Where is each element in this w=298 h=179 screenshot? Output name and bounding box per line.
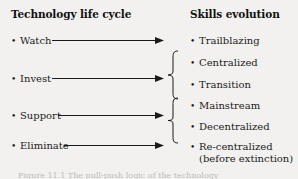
bullet-icon: • [190,58,199,69]
list-item-sublabel: (before extinction) [190,153,293,164]
brace-mainstream-decentralized-icon [167,97,179,144]
bullet-icon: • [11,74,20,85]
list-item-label: Eliminate [20,140,69,151]
arrow-watch-to-trailblazing-icon [52,36,164,45]
list-item-label: Centralized [199,57,258,68]
bullet-icon: • [190,142,199,153]
bullet-icon: • [190,101,199,112]
list-item-label: Decentralized [199,121,270,132]
arrow-eliminate-to-recentralized-icon [64,141,164,150]
list-item-support: •Support [11,110,61,122]
bullet-icon: • [190,80,199,91]
list-item-label: Trailblazing [199,35,260,46]
arrow-invest-to-centralized-group-icon [52,74,164,83]
list-item-label: Transition [199,79,251,90]
list-item-label: Invest [20,73,51,84]
list-item-label: Mainstream [199,100,260,111]
list-item-invest: •Invest [11,73,51,85]
list-item-eliminate: •Eliminate [11,140,69,152]
list-item-decentralized: •Decentralized [190,121,270,133]
arrow-support-to-mainstream-group-icon [58,111,164,120]
bullet-icon: • [190,36,199,47]
brace-centralized-transition-icon [167,50,179,100]
list-item-transition: •Transition [190,79,251,91]
technology-lifecycle-diagram: Technology life cycle Skills evolution •… [0,0,298,179]
list-item-centralized: •Centralized [190,57,258,69]
column-heading-technology-life-cycle: Technology life cycle [11,8,131,20]
list-item-mainstream: •Mainstream [190,100,260,112]
figure-caption: Figure 11.1 The pull-push logic of the t… [18,171,280,179]
bullet-icon: • [11,111,20,122]
list-item-recentralized: •Re-centralized (before extinction) [190,141,293,164]
bullet-icon: • [190,122,199,133]
list-item-label: Re-centralized [199,141,273,152]
list-item-trailblazing: •Trailblazing [190,35,260,47]
bullet-icon: • [11,141,20,152]
list-item-label: Support [20,110,61,121]
bullet-icon: • [11,36,20,47]
list-item-label: Watch [20,35,51,46]
column-heading-skills-evolution: Skills evolution [190,8,280,20]
list-item-watch: •Watch [11,35,51,47]
